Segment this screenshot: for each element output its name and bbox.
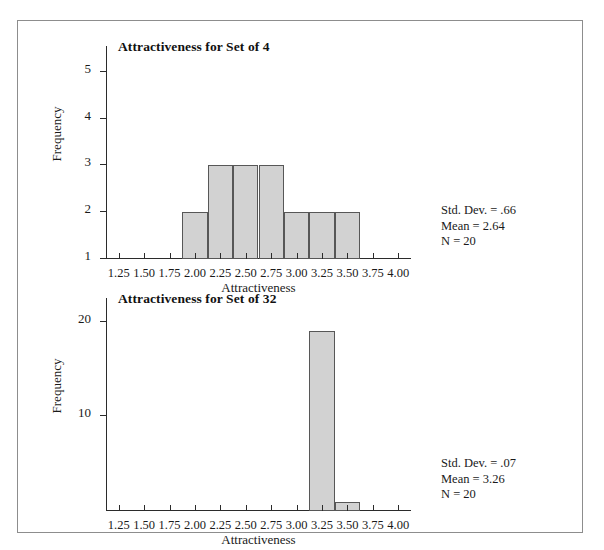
- mean-value-top: Mean = 2.64: [441, 219, 516, 235]
- x-axis-tick: [144, 505, 145, 511]
- plot-area-set-of-32: 1.251.501.752.002.252.502.753.003.253.50…: [106, 298, 411, 511]
- y-axis-line-top: [106, 46, 107, 259]
- x-axis-tick: [271, 505, 272, 511]
- x-axis-tick: [271, 253, 272, 259]
- histogram-bar: [182, 212, 207, 259]
- x-axis-tick: [220, 505, 221, 511]
- x-axis-tick: [373, 505, 374, 511]
- y-axis-label-text-bottom: Frequency: [49, 358, 65, 413]
- y-axis-label-bottom: Frequency: [48, 279, 66, 492]
- x-axis-tick: [297, 505, 298, 511]
- x-axis-tick: [322, 253, 323, 259]
- x-axis-tick-label: 1.50: [133, 519, 155, 532]
- x-axis-tick: [119, 253, 120, 259]
- y-axis-tick-label: 5: [85, 62, 92, 76]
- n-value-top: N = 20: [441, 234, 516, 250]
- x-axis-tick: [347, 505, 348, 511]
- x-axis-tick: [195, 253, 196, 259]
- x-axis-tick-label: 2.50: [235, 519, 257, 532]
- x-axis-tick-label: 3.50: [337, 519, 359, 532]
- x-axis-tick: [195, 505, 196, 511]
- stats-box-set-of-32: Std. Dev. = .07 Mean = 3.26 N = 20: [441, 456, 516, 503]
- x-axis-tick: [170, 505, 171, 511]
- n-value-bottom: N = 20: [441, 487, 516, 503]
- y-axis-tick-label: 10: [78, 406, 91, 420]
- x-axis-tick: [347, 253, 348, 259]
- x-axis-label-bottom: Attractiveness: [106, 532, 411, 548]
- figure-frame: Attractiveness for Set of 4 Frequency 1.…: [17, 20, 583, 533]
- y-axis-line-bottom: [106, 298, 107, 511]
- x-axis-tick-label: 3.00: [286, 519, 308, 532]
- x-axis-tick-label: 4.00: [387, 519, 409, 532]
- histogram-bar: [284, 212, 309, 259]
- x-axis-tick-label: 2.00: [184, 519, 206, 532]
- histogram-bar: [335, 212, 360, 259]
- y-axis-tick-label: 20: [78, 312, 91, 326]
- histogram-bar: [233, 165, 258, 259]
- y-axis-tick: 5: [100, 71, 106, 72]
- y-axis-tick-label: 4: [85, 109, 92, 123]
- y-axis-tick: 3: [100, 164, 106, 165]
- mean-value-bottom: Mean = 3.26: [441, 472, 516, 488]
- y-axis-tick: 2: [100, 211, 106, 212]
- x-axis-tick: [246, 505, 247, 511]
- histogram-bar: [309, 331, 334, 511]
- y-axis-tick-label: 3: [85, 155, 92, 169]
- chart-panel-set-of-32: Attractiveness for Set of 32 Frequency 1…: [18, 279, 584, 529]
- std-dev-value-top: Std. Dev. = .66: [441, 203, 516, 219]
- x-axis-tick-label: 2.25: [209, 519, 231, 532]
- y-axis-tick: 20: [100, 321, 106, 322]
- x-axis-tick: [119, 505, 120, 511]
- x-axis-tick-label: 3.75: [362, 519, 384, 532]
- y-axis-tick: 4: [100, 118, 106, 119]
- std-dev-value-bottom: Std. Dev. = .07: [441, 456, 516, 472]
- x-axis-tick-label: 1.75: [159, 519, 181, 532]
- x-axis-tick-label: 1.25: [108, 519, 130, 532]
- histogram-bar: [208, 165, 233, 259]
- chart-panel-set-of-4: Attractiveness for Set of 4 Frequency 1.…: [18, 27, 584, 277]
- histogram-bar: [309, 212, 334, 259]
- x-axis-tick: [220, 253, 221, 259]
- histogram-bar: [259, 165, 284, 259]
- x-axis-tick: [398, 505, 399, 511]
- x-axis-tick-label: 3.25: [311, 519, 333, 532]
- y-axis-label-text-top: Frequency: [49, 106, 65, 161]
- y-axis-tick: 10: [100, 415, 106, 416]
- y-axis-tick-label: 1: [85, 249, 92, 263]
- y-axis-label-top: Frequency: [48, 27, 66, 240]
- plot-area-set-of-4: 1.251.501.752.002.252.502.753.003.253.50…: [106, 46, 411, 259]
- x-axis-tick: [144, 253, 145, 259]
- stats-box-set-of-4: Std. Dev. = .66 Mean = 2.64 N = 20: [441, 203, 516, 250]
- y-axis-tick-label: 2: [85, 202, 92, 216]
- x-axis-tick-label: 2.75: [260, 519, 282, 532]
- x-axis-tick: [398, 253, 399, 259]
- x-axis-tick: [170, 253, 171, 259]
- x-axis-tick: [373, 253, 374, 259]
- y-axis-tick: 1: [100, 258, 106, 259]
- x-axis-tick: [297, 253, 298, 259]
- x-axis-tick: [322, 505, 323, 511]
- x-axis-line-bottom: [106, 510, 411, 511]
- x-axis-tick: [246, 253, 247, 259]
